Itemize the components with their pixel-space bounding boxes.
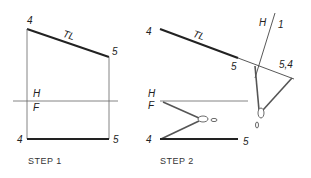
compass-pivot — [258, 108, 264, 118]
step2-label-fold-h: H — [259, 17, 267, 28]
compass-leg-lower — [161, 121, 199, 139]
step2-lower-compass — [161, 102, 217, 139]
step1-label-top4: 4 — [27, 15, 33, 26]
step2-panel: 4 TL 5 H 1 5,4 H F 4 5 STEP 2 — [146, 13, 294, 166]
step2-label-bottom5: 5 — [243, 136, 249, 147]
compass-handle — [211, 118, 217, 121]
descriptive-geometry-diagram: 4 TL 5 H F 4 5 STEP 1 4 TL 5 H — [0, 0, 311, 178]
step1-label-f: F — [33, 102, 40, 113]
compass-handle — [256, 122, 259, 128]
step1-label-tl: TL — [62, 28, 76, 42]
step1-label-h: H — [33, 88, 41, 99]
step2-label-tl: TL — [192, 28, 207, 42]
step2-label-fold-1: 1 — [278, 19, 284, 30]
step2-upper-compass — [255, 66, 292, 128]
step2-label-top5: 5 — [231, 61, 237, 72]
step2-label-top4: 4 — [146, 26, 152, 37]
step1-title: STEP 1 — [28, 156, 62, 166]
step1-label-bottom5: 5 — [113, 134, 119, 145]
step1-label-bottom4: 4 — [17, 134, 23, 145]
step2-title: STEP 2 — [160, 156, 194, 166]
step2-label-point54: 5,4 — [279, 59, 293, 70]
step1-panel: 4 TL 5 H F 4 5 STEP 1 — [13, 15, 119, 166]
step1-label-top5: 5 — [112, 46, 118, 57]
diagram-svg: 4 TL 5 H F 4 5 STEP 1 4 TL 5 H — [0, 0, 311, 178]
step2-label-h: H — [148, 88, 156, 99]
compass-leg-right — [263, 78, 292, 110]
compass-pivot — [198, 116, 208, 122]
step2-label-f: F — [148, 100, 155, 111]
compass-leg-upper — [163, 102, 199, 118]
step2-label-bottom4: 4 — [146, 134, 152, 145]
